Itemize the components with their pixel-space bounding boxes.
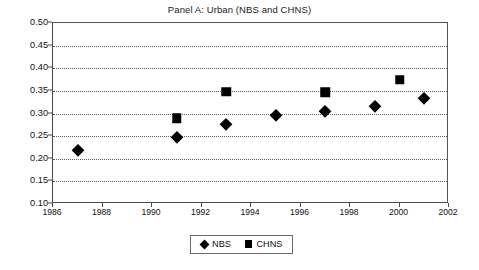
x-tick-label: 1990 bbox=[131, 207, 171, 217]
chart-legend: NBSCHNS bbox=[190, 235, 293, 254]
x-tick-label: 1998 bbox=[329, 207, 369, 217]
plot-area bbox=[52, 22, 448, 203]
data-point-nbs bbox=[369, 100, 381, 112]
x-tick-label: 2000 bbox=[379, 207, 419, 217]
gridline-y bbox=[53, 136, 447, 137]
y-tick-label: 0.50 bbox=[8, 17, 48, 27]
legend-label: NBS bbox=[212, 239, 231, 249]
legend-entry-chns: CHNS bbox=[245, 239, 283, 249]
y-tick-label: 0.15 bbox=[8, 175, 48, 185]
data-point-chns bbox=[395, 75, 405, 85]
y-axis-labels: 0.100.150.200.250.300.350.400.450.50 bbox=[4, 22, 48, 203]
x-axis-labels: 198619881990199219941996199820002002 bbox=[52, 207, 448, 221]
data-point-chns bbox=[172, 114, 182, 124]
gridline-y bbox=[53, 68, 447, 69]
gridline-y bbox=[53, 114, 447, 115]
data-point-nbs bbox=[220, 118, 232, 130]
chart-title: Panel A: Urban (NBS and CHNS) bbox=[0, 4, 479, 15]
gridline-y bbox=[53, 91, 447, 92]
data-point-nbs bbox=[72, 144, 84, 156]
y-tick-label: 0.40 bbox=[8, 62, 48, 72]
gridline-y bbox=[53, 181, 447, 182]
x-tick-label: 1988 bbox=[82, 207, 122, 217]
data-point-nbs bbox=[270, 109, 282, 121]
legend-entry-nbs: NBS bbox=[201, 239, 231, 249]
legend-label: CHNS bbox=[256, 239, 282, 249]
square-marker-icon bbox=[245, 240, 253, 248]
data-point-nbs bbox=[171, 131, 183, 143]
gridline-y bbox=[53, 159, 447, 160]
data-point-nbs bbox=[418, 92, 430, 104]
x-tick-label: 1994 bbox=[230, 207, 270, 217]
data-point-chns bbox=[222, 87, 232, 97]
x-tick-label: 1992 bbox=[181, 207, 221, 217]
y-tick-label: 0.20 bbox=[8, 153, 48, 163]
y-tick-label: 0.45 bbox=[8, 40, 48, 50]
chart-panel-a-urban: Panel A: Urban (NBS and CHNS) 0.100.150.… bbox=[0, 0, 479, 270]
diamond-marker-icon bbox=[200, 239, 210, 249]
data-point-nbs bbox=[319, 105, 331, 117]
x-tick-label: 1986 bbox=[32, 207, 72, 217]
y-tick-label: 0.25 bbox=[8, 130, 48, 140]
y-tick-label: 0.30 bbox=[8, 108, 48, 118]
x-tick-label: 2002 bbox=[428, 207, 468, 217]
gridline-y bbox=[53, 46, 447, 47]
x-tick-label: 1996 bbox=[280, 207, 320, 217]
data-point-chns bbox=[321, 87, 331, 97]
y-tick-label: 0.35 bbox=[8, 85, 48, 95]
